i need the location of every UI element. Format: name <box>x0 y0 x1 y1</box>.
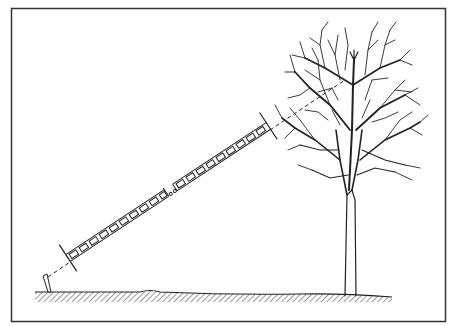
tree-trunk <box>336 130 362 296</box>
measuring-tape <box>59 113 277 272</box>
ground-stake <box>43 274 51 292</box>
tape-segment-upper <box>170 123 271 194</box>
ground <box>35 291 392 303</box>
figure: Line drawing of a segmented measuring ta… <box>0 0 457 326</box>
tape-segment-lower <box>65 186 173 262</box>
frame <box>12 9 446 322</box>
tree <box>275 22 428 296</box>
